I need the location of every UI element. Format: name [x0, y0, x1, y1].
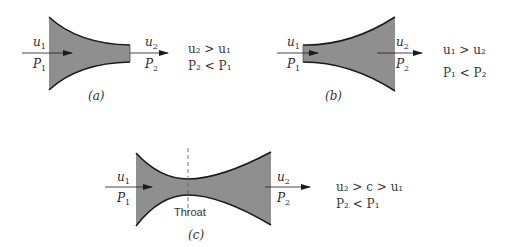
label-p2-c: P2: [277, 192, 290, 209]
relation-b-pressure: P₁ < P₂: [443, 67, 486, 80]
label-u2-b: u2: [396, 36, 409, 53]
label-u1-b: u1: [287, 36, 300, 53]
label-p1-b: P1: [287, 58, 300, 75]
label-u2-a: u2: [145, 36, 158, 53]
relation-c-velocity: u₂ > c > u₁: [336, 181, 403, 194]
relation-c-pressure: P₂ < P₁: [336, 198, 379, 211]
label-p1-a: P1: [33, 58, 46, 75]
caption-a: (a): [88, 89, 105, 103]
relation-b-velocity: u₁ > u₂: [443, 44, 486, 57]
caption-b: (b): [325, 89, 342, 103]
label-p2-b: P2: [396, 58, 409, 75]
nozzle-a-converging: [22, 17, 168, 90]
label-u2-c: u2: [277, 171, 290, 188]
caption-c: (c): [188, 228, 204, 242]
relation-a-pressure: P₂ < P₁: [188, 60, 231, 73]
label-p1-c: P1: [117, 192, 130, 209]
label-u1-c: u1: [117, 171, 130, 188]
throat-label: Throat: [174, 206, 206, 218]
nozzle-diagram: [0, 0, 507, 247]
label-p2-a: P2: [145, 58, 158, 75]
relation-a-velocity: u₂ > u₁: [188, 43, 231, 56]
label-u1-a: u1: [33, 36, 46, 53]
nozzle-b-diverging: [277, 17, 422, 91]
